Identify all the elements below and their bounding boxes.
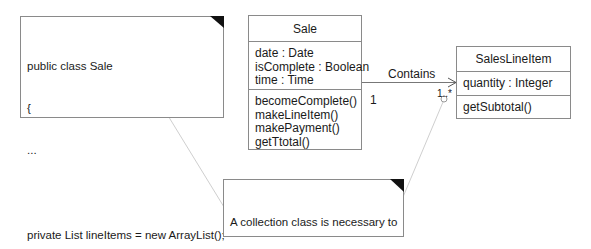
target-multiplicity: 1..* <box>437 88 452 99</box>
code-line: private List lineItems = new ArrayList()… <box>27 228 225 242</box>
operation: makeLineItem() <box>249 109 361 123</box>
attributes-section: quantity : Integer <box>457 72 570 96</box>
note-connector-right <box>403 102 443 197</box>
association-label: Contains <box>388 67 435 81</box>
attribute: quantity : Integer <box>457 72 570 94</box>
code-line: public class Sale <box>27 59 225 73</box>
code-note[interactable]: public class Sale { ... private List lin… <box>20 16 224 118</box>
note-corner-icon <box>210 16 224 28</box>
attributes-section: date : Date isComplete : Boolean time : … <box>249 42 361 90</box>
attribute: isComplete : Boolean <box>249 61 361 75</box>
operations-section: getSubtotal() <box>457 96 570 118</box>
operations-section: becomeComplete() makeLineItem() makePaym… <box>249 90 361 149</box>
comment-line: A collection class is necessary to <box>230 216 408 230</box>
code-line: { <box>27 101 225 115</box>
operation: becomeComplete() <box>249 95 361 109</box>
source-multiplicity: 1 <box>370 93 377 107</box>
comment-note[interactable]: A collection class is necessary to maint… <box>223 179 404 237</box>
operation: makePayment() <box>249 122 361 136</box>
code-line: ... <box>27 143 225 157</box>
class-name: Sale <box>249 16 361 42</box>
operation: getTtotal() <box>249 136 361 150</box>
attribute: date : Date <box>249 47 361 61</box>
class-name: SalesLineItem <box>457 47 570 72</box>
code-line <box>27 185 225 199</box>
operation: getSubtotal() <box>457 96 570 118</box>
class-sales-line-item[interactable]: SalesLineItem quantity : Integer getSubt… <box>456 46 571 119</box>
class-sale[interactable]: Sale date : Date isComplete : Boolean ti… <box>248 15 362 150</box>
attribute: time : Time <box>249 74 361 88</box>
